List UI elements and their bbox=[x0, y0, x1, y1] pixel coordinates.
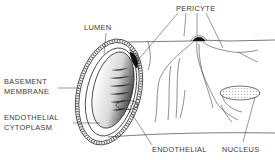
label-basement-membrane-1: BASEMENT bbox=[4, 78, 47, 87]
label-endothelial-cytoplasm-2: CYTOPLASM bbox=[4, 124, 52, 133]
leader-nucleus bbox=[243, 97, 255, 142]
endothelial-nucleus-capillary bbox=[116, 101, 138, 110]
label-endothelial: ENDOTHELIAL bbox=[152, 146, 207, 155]
lower-membrane-line bbox=[108, 133, 275, 137]
leader-pericyte-1 bbox=[138, 13, 178, 60]
label-lumen: LUMEN bbox=[84, 24, 111, 33]
label-pericyte: PERICYTE bbox=[176, 5, 215, 14]
nucleus-right bbox=[220, 86, 260, 100]
pericyte-processes bbox=[148, 41, 258, 122]
leader-pericyte-4 bbox=[206, 13, 223, 48]
leader-lumen bbox=[104, 33, 106, 54]
label-basement-membrane-2: MEMBRANE bbox=[4, 88, 49, 97]
capillary-diagram: LUMEN PERICYTE BASEMENT MEMBRANE ENDOTHE… bbox=[0, 0, 275, 160]
leader-lines bbox=[58, 13, 255, 145]
label-endothelial-cytoplasm-1: ENDOTHELIAL bbox=[4, 114, 59, 123]
leader-endothelial bbox=[128, 108, 152, 145]
pericyte-body-right bbox=[193, 37, 205, 41]
leader-pericyte-2 bbox=[184, 13, 186, 36]
label-nucleus: NUCLEUS bbox=[222, 146, 259, 155]
